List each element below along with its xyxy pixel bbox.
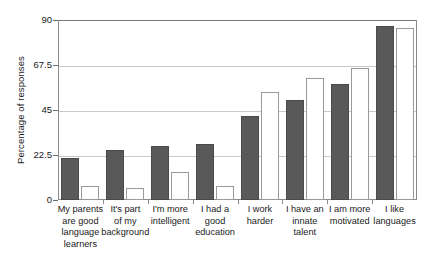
bar-group <box>376 20 414 200</box>
bar-group <box>61 20 99 200</box>
bar-group <box>151 20 189 200</box>
bar-chart: Percentage of responses 022.54567.590 My… <box>0 0 436 265</box>
bar-series-dark <box>286 100 304 200</box>
x-category-label: I like languages <box>368 204 421 227</box>
bar-series-light <box>306 78 324 200</box>
bar-series-light <box>261 92 279 200</box>
bar-series-dark <box>241 116 259 200</box>
y-tick-label: 22.5 <box>6 150 52 160</box>
bar-series-dark <box>106 150 124 200</box>
bar-series-light <box>126 188 144 200</box>
bar-series-dark <box>331 84 349 200</box>
bar-series-light <box>351 68 369 200</box>
bar-series-light <box>216 186 234 200</box>
bar-group <box>241 20 279 200</box>
y-tick-label: 45 <box>6 105 52 115</box>
bar-series-dark <box>376 26 394 200</box>
y-tick-label: 67.5 <box>6 60 52 70</box>
y-tick-mark <box>53 200 58 201</box>
bar-group <box>106 20 144 200</box>
bar-group <box>286 20 324 200</box>
y-tick-label: 0 <box>6 195 52 205</box>
bar-series-dark <box>61 158 79 200</box>
bars-layer <box>58 20 417 200</box>
bar-group <box>196 20 234 200</box>
bar-group <box>331 20 369 200</box>
bar-series-dark <box>196 144 214 200</box>
bar-series-dark <box>151 146 169 200</box>
bar-series-light <box>396 28 414 200</box>
bar-series-light <box>171 172 189 200</box>
y-tick-label: 90 <box>6 15 52 25</box>
x-axis-labels: My parents are good language learnersIt'… <box>58 204 417 262</box>
bar-series-light <box>81 186 99 200</box>
